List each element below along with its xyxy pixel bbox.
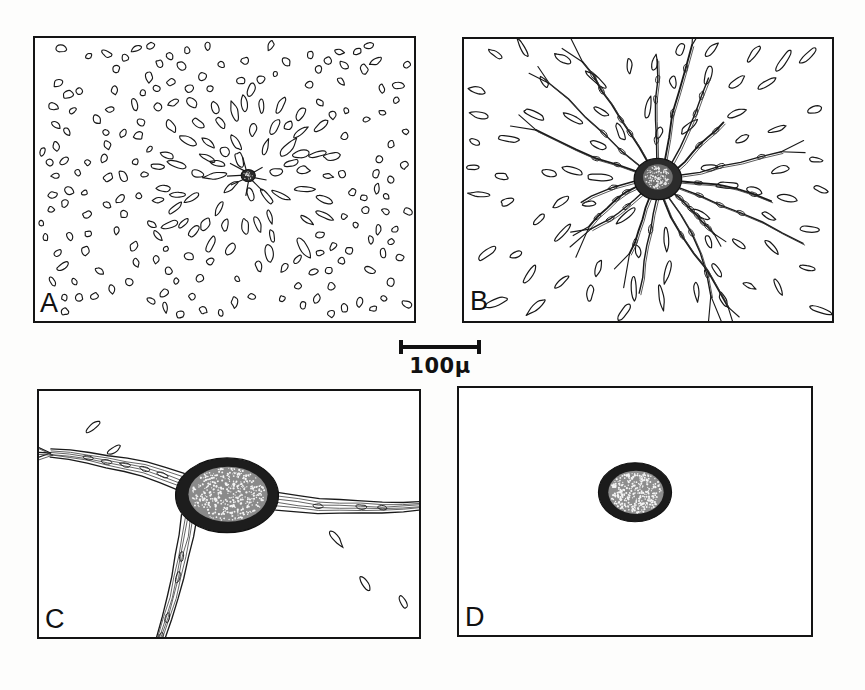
scale-bar-cap-left (399, 340, 403, 354)
scale-bar-label: 100μ (396, 355, 484, 377)
figure-plate: A B C (0, 0, 865, 690)
panel-c-label: C (45, 606, 65, 633)
panel-b (462, 37, 834, 323)
scale-bar-line (399, 345, 481, 349)
panel-b-central-cell (634, 158, 681, 199)
panel-b-drawing (464, 39, 832, 321)
panel-a-drawing (35, 38, 414, 321)
panel-a (33, 36, 416, 323)
panel-c (37, 389, 421, 639)
panel-d (457, 386, 813, 637)
panel-b-label: B (470, 288, 488, 315)
panel-c-drawing (39, 391, 419, 637)
scale-bar-cap-right (477, 340, 481, 354)
panel-d-drawing (459, 388, 811, 635)
panel-d-label: D (465, 604, 485, 631)
scale-bar-line-group (399, 340, 481, 354)
panel-c-central-cell (176, 458, 279, 533)
panel-d-central-cell (598, 463, 671, 522)
scale-bar: 100μ (396, 340, 488, 386)
panel-a-label: A (40, 290, 58, 317)
